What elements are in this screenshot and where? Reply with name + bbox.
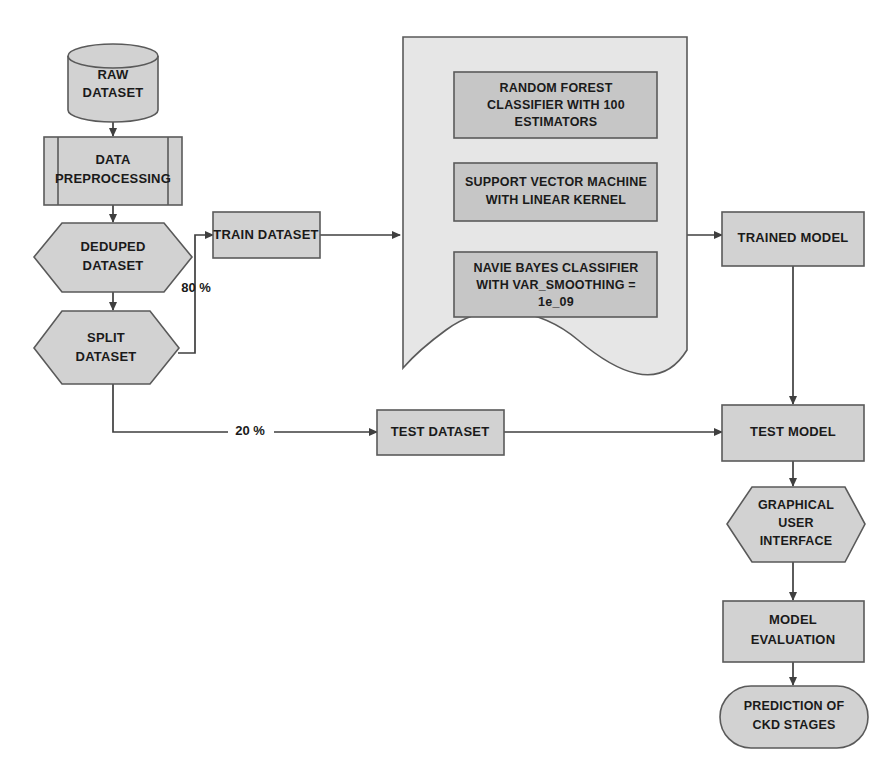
node-trained-model[interactable]: TRAINED MODEL (722, 212, 864, 266)
node-naive-bayes[interactable]: NAVIE BAYES CLASSIFIER WITH VAR_SMOOTHIN… (454, 252, 657, 317)
train-dataset-label: TRAIN DATASET (213, 227, 318, 242)
node-deduped-dataset[interactable]: DEDUPED DATASET (34, 223, 192, 292)
random-forest-label-line1: RANDOM FOREST (499, 81, 612, 95)
svm-shape (454, 163, 657, 221)
flowchart-canvas: RAW DATASET DATA PREPROCESSING DEDUPED D… (0, 0, 896, 773)
gui-label-line1: GRAPHICAL (758, 498, 834, 512)
split-dataset-label-line2: DATASET (76, 349, 137, 364)
naive-bayes-label-line1: NAVIE BAYES CLASSIFIER (474, 261, 639, 275)
svm-label-line2: WITH LINEAR KERNEL (486, 193, 627, 207)
prediction-shape (720, 686, 868, 748)
node-prediction[interactable]: PREDICTION OF CKD STAGES (720, 686, 868, 748)
svm-label-line1: SUPPORT VECTOR MACHINE (465, 175, 647, 189)
split-dataset-label-line1: SPLIT (87, 330, 125, 345)
test-dataset-label: TEST DATASET (391, 424, 490, 439)
node-split-dataset[interactable]: SPLIT DATASET (34, 311, 179, 384)
model-evaluation-label-line1: MODEL (769, 612, 817, 627)
split-dataset-shape (34, 311, 179, 384)
node-raw-dataset[interactable]: RAW DATASET (68, 44, 158, 122)
node-test-dataset[interactable]: TEST DATASET (377, 410, 504, 455)
edge-label-80-percent: 80 % (181, 280, 211, 295)
flowchart-diagram: RAW DATASET DATA PREPROCESSING DEDUPED D… (0, 0, 896, 773)
node-train-dataset[interactable]: TRAIN DATASET (213, 212, 320, 258)
raw-dataset-label-line1: RAW (98, 67, 129, 82)
node-svm[interactable]: SUPPORT VECTOR MACHINE WITH LINEAR KERNE… (454, 163, 657, 221)
data-preprocessing-label-line1: DATA (96, 152, 131, 167)
naive-bayes-label-line2: WITH VAR_SMOOTHING = (476, 278, 636, 292)
naive-bayes-label-line3: 1e_09 (538, 295, 574, 309)
deduped-dataset-label-line1: DEDUPED (81, 239, 146, 254)
node-model-evaluation[interactable]: MODEL EVALUATION (723, 601, 864, 662)
gui-label-line2: USER (778, 516, 814, 530)
node-random-forest[interactable]: RANDOM FOREST CLASSIFIER WITH 100 ESTIMA… (454, 72, 657, 138)
edge-label-20-percent-text: 20 % (235, 423, 265, 438)
data-preprocessing-label-line2: PREPROCESSING (55, 171, 171, 186)
random-forest-label-line3: ESTIMATORS (515, 115, 598, 129)
node-test-model[interactable]: TEST MODEL (722, 405, 864, 461)
raw-dataset-shape (68, 44, 158, 122)
deduped-dataset-label-line2: DATASET (83, 258, 144, 273)
node-gui[interactable]: GRAPHICAL USER INTERFACE (727, 487, 865, 562)
random-forest-label-line2: CLASSIFIER WITH 100 (487, 98, 625, 112)
raw-dataset-label-line2: DATASET (83, 85, 144, 100)
prediction-label-line2: CKD STAGES (752, 718, 835, 732)
trained-model-label: TRAINED MODEL (738, 230, 849, 245)
prediction-label-line1: PREDICTION OF (744, 699, 845, 713)
model-evaluation-label-line2: EVALUATION (751, 632, 836, 647)
test-model-label: TEST MODEL (750, 424, 836, 439)
gui-label-line3: INTERFACE (760, 534, 833, 548)
node-data-preprocessing[interactable]: DATA PREPROCESSING (44, 137, 182, 205)
